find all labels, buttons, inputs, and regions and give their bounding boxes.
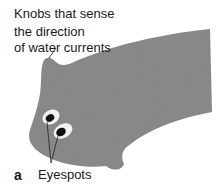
knobs-label-line2: the direction <box>14 24 85 40</box>
knobs-label-line3: of water currents <box>14 40 111 56</box>
eyespots-label: Eyespots <box>38 167 91 183</box>
knobs-label-line1: Knobs that sense <box>14 6 114 22</box>
panel-label: a <box>14 167 22 183</box>
